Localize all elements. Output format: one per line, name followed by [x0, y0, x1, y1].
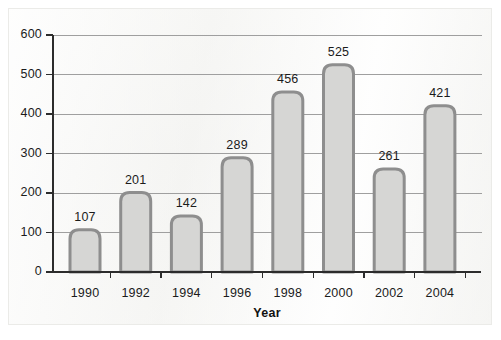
bar-value-label: 142: [161, 196, 211, 210]
y-tick-label: 400: [8, 106, 42, 120]
bar: [171, 216, 201, 272]
y-tick-label: 300: [8, 146, 42, 160]
bar-value-label: 201: [111, 173, 161, 187]
bar: [121, 193, 151, 272]
y-tick-label: 600: [8, 27, 42, 41]
x-tick-label: 2004: [410, 286, 470, 300]
bar-value-label: 107: [60, 210, 110, 224]
y-tick-label: 100: [8, 225, 42, 239]
x-axis-title: Year: [53, 306, 481, 320]
bar-value-label: 421: [415, 86, 465, 100]
bar-value-label: 456: [263, 72, 313, 86]
bar-chart-figure: 0100200300400500600 19901992199419961998…: [0, 0, 501, 340]
bar: [324, 65, 354, 272]
bar: [222, 158, 252, 272]
bars-group: [70, 65, 455, 272]
bar-value-label: 261: [364, 149, 414, 163]
y-tick-label: 0: [8, 264, 42, 278]
bar-value-label: 289: [212, 138, 262, 152]
gridlines-group: [53, 35, 482, 233]
bar-value-label: 525: [314, 45, 364, 59]
y-tick-label: 500: [8, 67, 42, 81]
bar: [425, 106, 455, 272]
bar: [374, 169, 404, 272]
y-tick-label: 200: [8, 185, 42, 199]
bar: [273, 92, 303, 272]
bar: [70, 230, 100, 272]
